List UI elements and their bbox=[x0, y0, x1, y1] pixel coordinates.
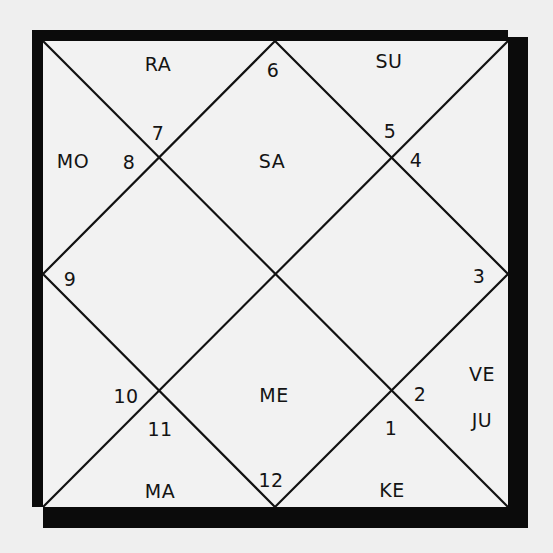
planet-label-ke: KE bbox=[379, 479, 404, 501]
sign-number-2: 2 bbox=[414, 383, 427, 405]
planet-label-su: SU bbox=[376, 50, 403, 72]
sign-number-9: 9 bbox=[64, 268, 77, 290]
sign-number-10: 10 bbox=[113, 385, 138, 407]
planet-label-ju: JU bbox=[472, 409, 493, 431]
sign-number-4: 4 bbox=[410, 149, 423, 171]
sign-number-1: 1 bbox=[385, 417, 398, 439]
sign-number-12: 12 bbox=[258, 469, 283, 491]
sign-number-8: 8 bbox=[123, 151, 136, 173]
birth-chart: RA SU MO SA ME VE JU MA KE 1 2 3 4 5 6 7… bbox=[0, 0, 553, 553]
sign-number-11: 11 bbox=[147, 418, 172, 440]
planet-label-ve: VE bbox=[469, 363, 495, 385]
sign-number-7: 7 bbox=[152, 122, 165, 144]
sign-number-6: 6 bbox=[267, 59, 280, 81]
planet-label-mo: MO bbox=[57, 150, 89, 172]
planet-label-ra: RA bbox=[145, 53, 171, 75]
planet-label-ma: MA bbox=[145, 480, 175, 502]
planet-label-me: ME bbox=[259, 384, 288, 406]
planet-label-sa: SA bbox=[259, 150, 285, 172]
sign-number-3: 3 bbox=[473, 265, 486, 287]
sign-number-5: 5 bbox=[384, 120, 397, 142]
